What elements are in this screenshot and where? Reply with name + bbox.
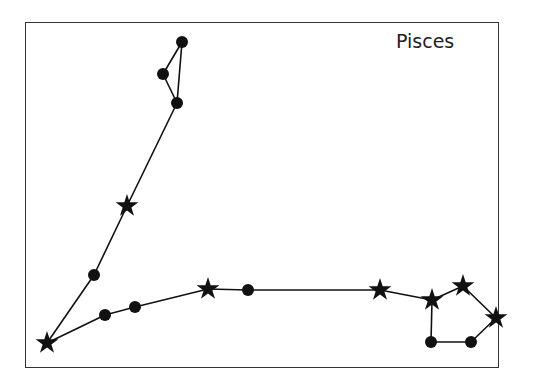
- star-dot-icon: [88, 269, 100, 281]
- star-dot-icon: [242, 284, 254, 296]
- constellation-canvas: [0, 0, 547, 386]
- star-dot-icon: [425, 336, 437, 348]
- constellation-line: [47, 315, 105, 343]
- star-dot-icon: [99, 309, 111, 321]
- constellation-line: [47, 275, 94, 343]
- star-dot-icon: [465, 336, 477, 348]
- star-dot-icon: [176, 36, 188, 48]
- star-dot-icon: [171, 97, 183, 109]
- constellation-stars: [36, 36, 508, 353]
- bright-star-icon: [116, 194, 139, 216]
- star-dot-icon: [157, 68, 169, 80]
- bright-star-icon: [369, 278, 392, 300]
- bright-star-icon: [36, 331, 59, 353]
- bright-star-icon: [197, 277, 220, 299]
- constellation-line: [127, 103, 177, 206]
- star-dot-icon: [129, 301, 141, 313]
- constellation-line: [135, 289, 208, 307]
- constellation-line: [177, 42, 182, 103]
- constellation-line: [431, 300, 432, 342]
- bright-star-icon: [452, 274, 475, 296]
- constellation-line: [94, 206, 127, 275]
